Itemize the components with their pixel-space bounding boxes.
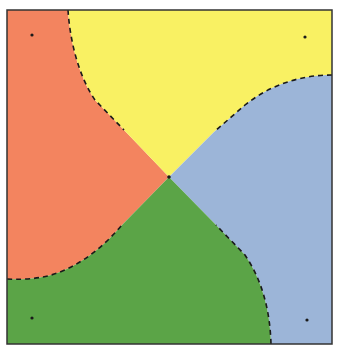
center-point: [167, 175, 171, 179]
region-diagram: [0, 0, 338, 355]
site-point-top-left: [30, 33, 33, 36]
site-point-bottom-right: [305, 318, 308, 321]
site-point-bottom-left: [30, 316, 33, 319]
site-point-top-right: [303, 35, 306, 38]
